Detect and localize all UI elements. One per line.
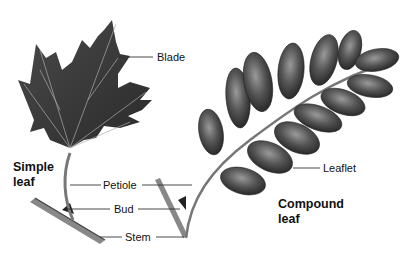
bud-label: Bud (114, 203, 134, 215)
simple-leaf-title: Simple leaf (13, 160, 54, 190)
blade-label: Blade (157, 51, 185, 63)
maple-blade (18, 20, 152, 148)
compound-leaf-title: Compound leaf (278, 197, 344, 227)
compound-leaf-title-line2: leaf (278, 212, 344, 227)
compound-leaf-stem (155, 178, 188, 238)
leaf-diagram-art (0, 0, 417, 253)
petiole-label: Petiole (103, 179, 137, 191)
simple-leaf-title-line2: leaf (13, 175, 54, 190)
leaflets (195, 28, 400, 200)
leaflet-label: Leaflet (323, 162, 356, 174)
compound-leaf-title-line1: Compound (278, 197, 344, 212)
stem-label: Stem (125, 231, 151, 243)
simple-leaf-title-line1: Simple (13, 160, 54, 175)
